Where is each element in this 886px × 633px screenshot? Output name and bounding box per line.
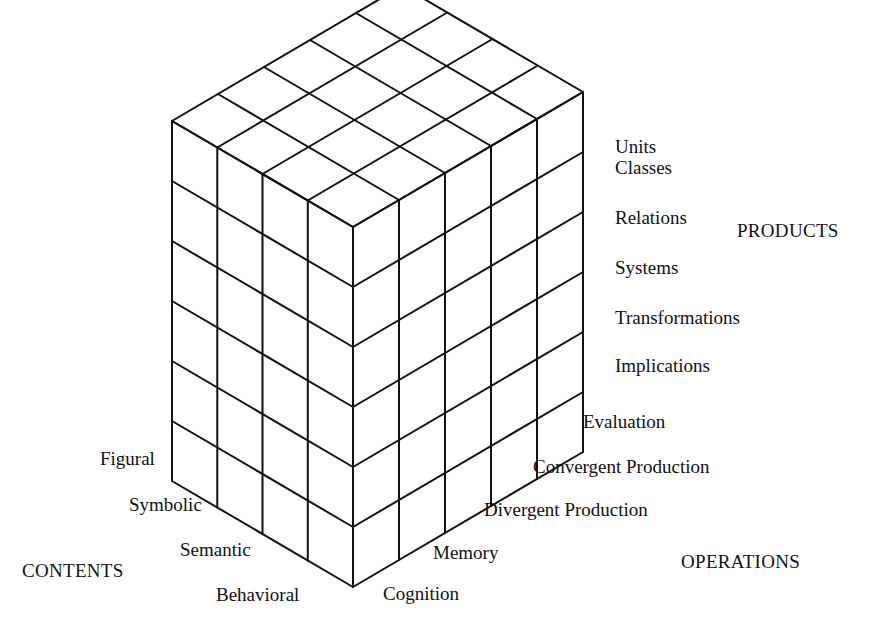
contents-axis-title: CONTENTS: [22, 561, 124, 580]
product-label-relations: Relations: [615, 208, 687, 227]
product-label-units: Units: [615, 137, 656, 156]
operation-label-memory: Memory: [433, 543, 498, 562]
content-label-figural: Figural: [100, 449, 155, 468]
top-face-line: [172, 0, 402, 121]
content-label-semantic: Semantic: [180, 540, 251, 559]
top-face-line: [217, 13, 447, 148]
product-label-classes: Classes: [615, 158, 672, 177]
right-face-horizontal-line: [353, 212, 583, 347]
right-face-horizontal-line: [353, 152, 583, 287]
cube-grid: [0, 0, 886, 633]
content-label-symbolic: Symbolic: [129, 495, 202, 514]
product-label-transformations: Transformations: [615, 308, 740, 327]
top-face-line: [263, 39, 493, 174]
operations-axis-title: OPERATIONS: [681, 552, 800, 571]
top-face-line: [308, 66, 538, 201]
top-face-line: [402, 0, 583, 92]
operation-label-evaluation: Evaluation: [583, 412, 665, 431]
operation-label-divergent-production: Divergent Production: [484, 500, 648, 519]
product-label-systems: Systems: [615, 258, 678, 277]
content-label-behavioral: Behavioral: [216, 585, 299, 604]
operation-label-convergent-production: Convergent Production: [533, 457, 709, 476]
right-face-horizontal-line: [353, 272, 583, 407]
operation-label-cognition: Cognition: [383, 584, 459, 603]
product-label-implications: Implications: [615, 356, 710, 375]
products-axis-title: PRODUCTS: [737, 221, 839, 240]
structure-of-intellect-diagram: Units Classes Relations Systems Transfor…: [0, 0, 886, 633]
right-face-horizontal-line: [353, 332, 583, 467]
top-face-line: [353, 92, 583, 227]
